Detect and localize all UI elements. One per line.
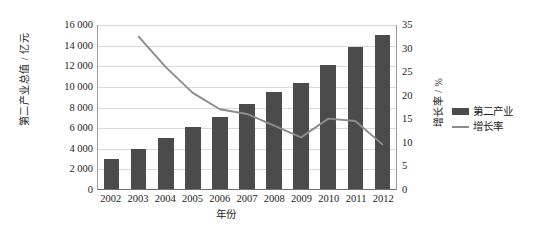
bar-slot	[179, 25, 206, 189]
line-swatch-icon	[452, 123, 469, 130]
left-tick-label: 10 000	[64, 82, 93, 92]
right-tick-label: 0	[402, 185, 407, 195]
legend-item-bar: 第二产业	[452, 104, 513, 119]
bar-slot	[369, 25, 396, 189]
right-tick-label: 20	[402, 91, 413, 101]
bar	[131, 149, 147, 189]
bar	[239, 104, 255, 189]
bar-slot	[152, 25, 179, 189]
right-axis-ticks: 05101520253035	[402, 25, 428, 190]
bar	[320, 65, 336, 189]
bar-swatch-icon	[452, 108, 469, 115]
bar-slot	[342, 25, 369, 189]
right-tick-label: 30	[402, 44, 413, 54]
bar-slot	[233, 25, 260, 189]
legend-label-line: 增长率	[473, 119, 503, 134]
legend-item-line: 增长率	[452, 119, 513, 134]
left-tick-label: 4 000	[69, 144, 93, 154]
legend-label-bar: 第二产业	[473, 104, 513, 119]
left-axis-ticks: 02 0004 0006 0008 00010 00012 00014 0001…	[28, 25, 93, 190]
bar-slot	[261, 25, 288, 189]
left-tick-label: 12 000	[64, 61, 93, 71]
right-tick-label: 10	[402, 138, 413, 148]
bar	[266, 92, 282, 189]
left-tick-label: 8 000	[69, 103, 93, 113]
right-tick-label: 15	[402, 114, 413, 124]
bar-slot	[206, 25, 233, 189]
chart-legend: 第二产业 增长率	[452, 104, 513, 134]
bar-slot	[315, 25, 342, 189]
bar	[293, 83, 309, 189]
right-tick-label: 35	[402, 20, 413, 30]
bar-slot	[288, 25, 315, 189]
plot-area	[97, 25, 397, 190]
bar-slot	[98, 25, 125, 189]
left-tick-label: 6 000	[69, 123, 93, 133]
left-tick-label: 16 000	[64, 20, 93, 30]
left-tick-label: 14 000	[64, 41, 93, 51]
left-tick-label: 2 000	[69, 164, 93, 174]
x-axis-title: 年份	[0, 206, 542, 221]
right-axis-title: 增长率 / %	[430, 58, 445, 148]
bar	[375, 35, 391, 189]
bar	[104, 159, 120, 189]
bar	[185, 127, 201, 189]
x-tick-label: 2012	[367, 193, 399, 205]
bar-slot	[125, 25, 152, 189]
x-axis-title-label: 年份	[216, 209, 236, 220]
right-tick-label: 5	[402, 161, 407, 171]
right-tick-label: 25	[402, 67, 413, 77]
left-tick-label: 0	[88, 185, 93, 195]
bar-series	[98, 25, 396, 189]
bar	[348, 47, 364, 189]
bar	[158, 138, 174, 189]
bar	[212, 117, 228, 189]
chart-figure: 第二产业总值 / 亿元 02 0004 0006 0008 00010 0001…	[0, 0, 542, 239]
